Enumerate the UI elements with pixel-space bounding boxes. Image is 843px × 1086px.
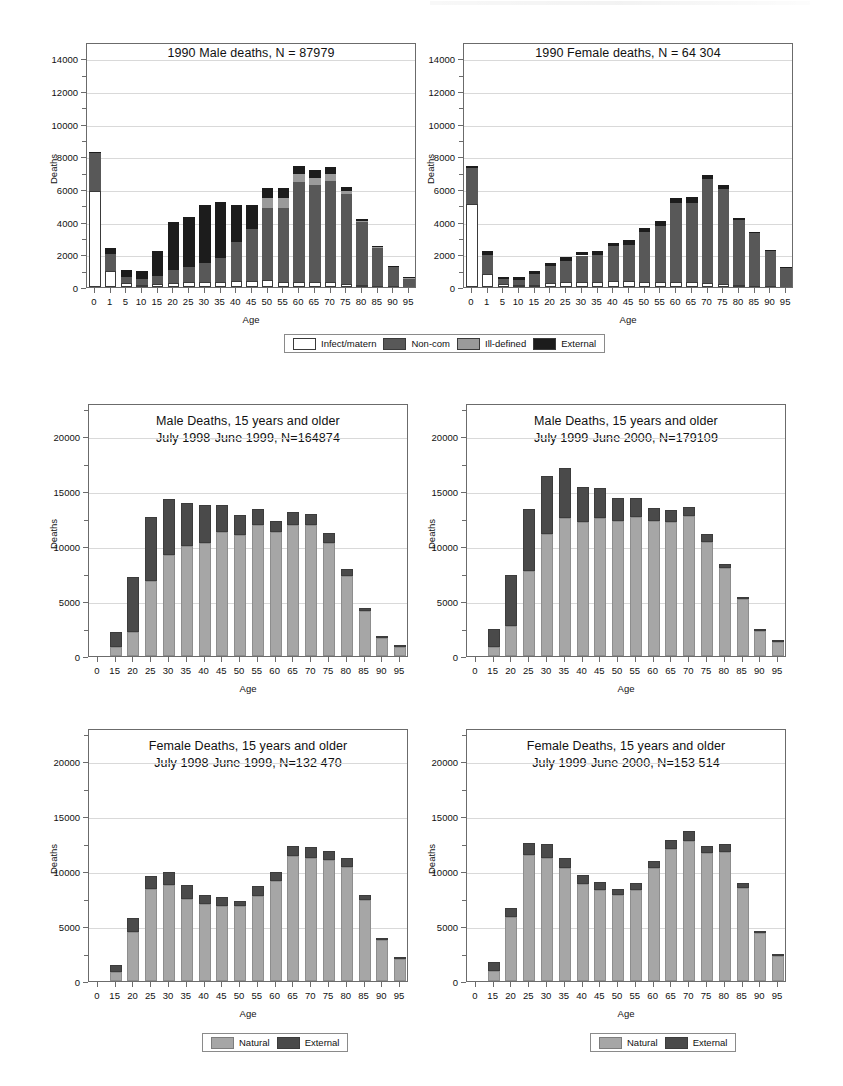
bar bbox=[772, 955, 784, 981]
bar-segment bbox=[701, 846, 713, 854]
bar-segment bbox=[341, 187, 352, 191]
y-axis-tick bbox=[83, 602, 88, 603]
bar-segment bbox=[749, 232, 760, 233]
x-axis-tick-label: 5 bbox=[500, 296, 505, 307]
bar bbox=[403, 277, 414, 287]
y-axis-tick-label: 20000 bbox=[418, 757, 458, 768]
x-axis-tick-label: 30 bbox=[541, 665, 552, 676]
bar-segment bbox=[648, 508, 660, 521]
y-axis-tick bbox=[83, 927, 88, 928]
bar-segment bbox=[560, 257, 571, 261]
bar-segment bbox=[110, 632, 122, 647]
x-axis-tick-label: 70 bbox=[305, 990, 316, 1001]
bar-segment bbox=[199, 543, 211, 656]
x-axis-tick bbox=[493, 657, 494, 662]
x-axis-tick-label: 25 bbox=[183, 296, 194, 307]
plot-area-female-1998-1999: Female Deaths, 15 years and olderJuly 19… bbox=[88, 729, 408, 982]
bar-segment bbox=[733, 220, 744, 285]
x-axis-tick-label: 15 bbox=[109, 665, 120, 676]
bar bbox=[719, 844, 731, 982]
bar bbox=[287, 512, 299, 656]
y-axis-tick bbox=[458, 288, 463, 289]
y-axis-tick bbox=[83, 762, 88, 763]
x-axis-tick bbox=[408, 288, 409, 293]
bar-segment bbox=[754, 933, 766, 981]
x-axis-tick-label: 30 bbox=[541, 990, 552, 1001]
y-axis-tick-label: 0 bbox=[417, 283, 455, 294]
y-axis-minor-tick bbox=[459, 239, 463, 240]
y-axis-tick bbox=[461, 762, 466, 763]
bar-segment bbox=[701, 534, 713, 542]
bar-segment bbox=[323, 543, 335, 656]
bar bbox=[376, 637, 388, 656]
x-axis-tick-label: 80 bbox=[356, 296, 367, 307]
bar-segment bbox=[359, 895, 371, 900]
y-axis-tick bbox=[458, 59, 463, 60]
x-axis-tick-label: 70 bbox=[683, 990, 694, 1001]
y-axis-tick-label: 15000 bbox=[40, 812, 80, 823]
bar-segment bbox=[287, 846, 299, 856]
bar-segment bbox=[325, 282, 336, 287]
bar bbox=[630, 883, 642, 981]
x-axis-tick-label: 50 bbox=[234, 990, 245, 1001]
x-axis-tick bbox=[239, 982, 240, 987]
x-axis-tick-label: 85 bbox=[736, 990, 747, 1001]
x-axis-tick-label: 55 bbox=[277, 296, 288, 307]
bar-segment bbox=[163, 499, 175, 555]
bar bbox=[215, 202, 226, 287]
bar-segment bbox=[145, 876, 157, 889]
bar bbox=[594, 488, 606, 656]
bar-segment bbox=[388, 267, 399, 286]
bar-segment bbox=[199, 282, 210, 287]
x-axis-tick bbox=[510, 657, 511, 662]
x-axis-tick bbox=[221, 657, 222, 662]
bar-segment bbox=[403, 278, 414, 287]
y-axis-tick bbox=[461, 817, 466, 818]
bar bbox=[199, 205, 210, 287]
bar bbox=[394, 958, 406, 981]
bar bbox=[488, 962, 500, 981]
bar bbox=[216, 505, 228, 656]
x-axis-tick-label: 90 bbox=[754, 990, 765, 1001]
bar bbox=[665, 510, 677, 656]
bar-segment bbox=[127, 577, 139, 632]
x-axis-tick bbox=[150, 657, 151, 662]
x-axis-tick bbox=[691, 288, 692, 293]
bar bbox=[231, 205, 242, 287]
y-axis-tick-label: 15000 bbox=[40, 487, 80, 498]
x-axis-tick bbox=[186, 982, 187, 987]
y-axis-tick-label: 10000 bbox=[417, 119, 455, 130]
x-axis-tick-label: 90 bbox=[764, 296, 775, 307]
x-axis-tick bbox=[399, 982, 400, 987]
bar-segment bbox=[482, 274, 493, 287]
x-axis-tick bbox=[617, 982, 618, 987]
plot-area-male-1990: 1990 Male deaths, N = 87979 bbox=[86, 43, 416, 288]
bar bbox=[683, 507, 695, 656]
y-axis-tick-label: 8000 bbox=[417, 152, 455, 163]
figure-root: 1990 Male deaths, N = 879790200040006000… bbox=[0, 0, 843, 1086]
bar-segment bbox=[231, 242, 242, 281]
x-axis-tick-label: 85 bbox=[736, 665, 747, 676]
y-axis-minor-tick bbox=[82, 141, 86, 142]
bar-segment bbox=[639, 282, 650, 287]
x-axis-tick-label: 0 bbox=[91, 296, 96, 307]
bar-segment bbox=[683, 841, 695, 981]
x-axis-tick bbox=[364, 982, 365, 987]
x-axis-tick bbox=[475, 657, 476, 662]
x-axis-tick-label: 50 bbox=[612, 665, 623, 676]
y-axis-tick-label: 5000 bbox=[40, 922, 80, 933]
y-axis-minor-tick bbox=[84, 790, 88, 791]
bar-segment bbox=[670, 203, 681, 281]
bar-segment bbox=[89, 153, 100, 191]
x-axis-tick bbox=[204, 657, 205, 662]
x-axis-tick bbox=[628, 288, 629, 293]
legend-natural-external-left: NaturalExternal bbox=[202, 1033, 348, 1052]
legend-swatch-extern2-icon bbox=[277, 1037, 300, 1049]
bar bbox=[701, 846, 713, 981]
y-axis-tick bbox=[461, 872, 466, 873]
x-axis-tick bbox=[292, 982, 293, 987]
bar-segment bbox=[89, 191, 100, 287]
x-axis-tick-label: 85 bbox=[371, 296, 382, 307]
x-axis-tick bbox=[346, 982, 347, 987]
legend-label: External bbox=[305, 1037, 340, 1048]
